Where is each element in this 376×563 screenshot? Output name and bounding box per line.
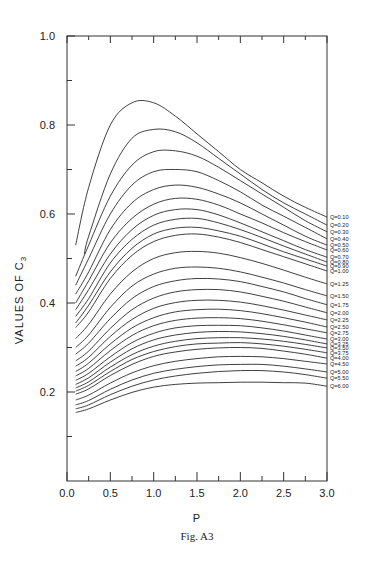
q-label: Q=0.40 [330, 236, 349, 242]
q-label: Q=4.50 [330, 361, 349, 367]
x-tick-label: 1.0 [146, 487, 161, 499]
y-axis-title: VALUES OF C3 [13, 256, 28, 344]
q-label: Q=2.75 [330, 330, 349, 336]
curve-Q-6_00 [76, 382, 327, 412]
curve-Q-0_30 [76, 150, 327, 276]
y-tick-label: 0.6 [40, 208, 55, 220]
q-label: Q=5.50 [330, 375, 349, 381]
y-tick-label: 1.0 [40, 30, 55, 42]
x-tick-label: 0.5 [103, 487, 118, 499]
q-label: Q=5.00 [330, 369, 349, 375]
y-tick-label: 0.8 [40, 119, 55, 131]
chart: 0.00.51.01.52.02.53.00.20.40.60.81.0 Q=0… [0, 0, 376, 563]
y-tick-label: 0.4 [40, 297, 55, 309]
q-label: Q=0.20 [330, 222, 349, 228]
curve-Q-2_50 [76, 309, 327, 371]
x-tick-label: 2.5 [276, 487, 291, 499]
q-label: Q=1.00 [330, 268, 349, 274]
q-label: Q=2.25 [330, 317, 349, 323]
x-tick-label: 2.0 [233, 487, 248, 499]
curve-Q-5_50 [76, 370, 327, 408]
q-label: Q=1.25 [330, 281, 349, 287]
q-label: Q=1.75 [330, 302, 349, 308]
curve-Q-2_25 [76, 300, 327, 366]
curve-Q-1_50 [76, 267, 327, 348]
x-axis-title: P [193, 512, 201, 524]
x-tick-label: 0.0 [59, 487, 74, 499]
q-label: Q=0.30 [330, 229, 349, 235]
x-tick-label: 3.0 [319, 487, 334, 499]
figure-caption: Fig. A3 [180, 530, 214, 542]
q-label: Q=1.50 [330, 293, 349, 299]
q-label: Q=2.00 [330, 310, 349, 316]
q-label: Q=0.10 [330, 214, 349, 220]
legend-labels: Q=0.10Q=0.20Q=0.30Q=0.40Q=0.50Q=0.60Q=0.… [330, 214, 349, 389]
x-tick-label: 1.5 [189, 487, 204, 499]
curve-group [76, 100, 327, 412]
y-tick-label: 0.2 [40, 386, 55, 398]
q-label: Q=0.60 [330, 247, 349, 253]
curve-Q-3_50 [76, 338, 327, 388]
curve-Q-0_50 [76, 185, 327, 294]
q-label: Q=6.00 [330, 383, 349, 389]
plot-axes: 0.00.51.01.52.02.53.00.20.40.60.81.0 [40, 30, 335, 499]
